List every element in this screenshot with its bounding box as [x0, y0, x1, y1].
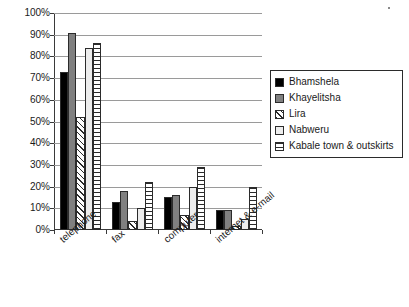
- bar: [93, 43, 101, 230]
- legend-item-label: Bhamshela: [289, 77, 339, 87]
- plot-area: [54, 13, 262, 230]
- legend-item: Kabale town & outskirts: [275, 138, 399, 154]
- legend-item-label: Lira: [289, 109, 306, 119]
- diagonal-hatch-swatch: [275, 110, 284, 119]
- bar: [112, 202, 120, 230]
- bar: [145, 182, 153, 230]
- y-tick-label: 0%: [36, 225, 50, 235]
- y-tick-label: 50%: [30, 117, 50, 127]
- legend-item-label: Nabweru: [289, 125, 329, 135]
- y-tick-label: 100%: [24, 8, 50, 18]
- y-tick-label: 90%: [30, 30, 50, 40]
- bar-group: [106, 13, 158, 230]
- corner-artifact-dot: [388, 7, 390, 9]
- y-axis-tick-labels: 100%90%80%70%60%50%40%30%20%10%0%: [0, 0, 50, 230]
- bar: [128, 221, 136, 230]
- y-tick-label: 10%: [30, 203, 50, 213]
- x-tick-mark: [210, 230, 211, 234]
- y-tick-label: 80%: [30, 51, 50, 61]
- bar: [60, 72, 68, 230]
- bar-group: [210, 13, 262, 230]
- y-tick-label: 20%: [30, 182, 50, 192]
- bar: [68, 33, 76, 230]
- white-swatch: [275, 126, 284, 135]
- legend-item: Khayelitsha: [275, 90, 399, 106]
- bar: [85, 48, 93, 230]
- bar: [137, 208, 145, 230]
- y-tick-label: 40%: [30, 138, 50, 148]
- bar-group: [54, 13, 106, 230]
- horizontal-stripe-swatch: [275, 142, 284, 151]
- bar: [164, 197, 172, 230]
- x-tick-mark: [54, 230, 55, 234]
- bar: [120, 191, 128, 230]
- legend-item: Bhamshela: [275, 74, 399, 90]
- bar-chart: 100%90%80%70%60%50%40%30%20%10%0% teleph…: [0, 0, 409, 307]
- x-tick-mark: [106, 230, 107, 234]
- bar: [197, 167, 205, 230]
- solid-gray-swatch: [275, 94, 284, 103]
- y-tick-label: 70%: [30, 73, 50, 83]
- solid-black-swatch: [275, 78, 284, 87]
- y-tick-label: 30%: [30, 160, 50, 170]
- x-tick-mark: [262, 230, 263, 234]
- legend-item: Lira: [275, 106, 399, 122]
- legend-item-label: Khayelitsha: [289, 93, 341, 103]
- legend-item: Nabweru: [275, 122, 399, 138]
- legend-item-label: Kabale town & outskirts: [289, 141, 394, 151]
- bar-group: [158, 13, 210, 230]
- chart-legend: BhamshelaKhayelitshaLiraNabweruKabale to…: [270, 70, 403, 158]
- x-tick-mark: [158, 230, 159, 234]
- y-tick-label: 60%: [30, 95, 50, 105]
